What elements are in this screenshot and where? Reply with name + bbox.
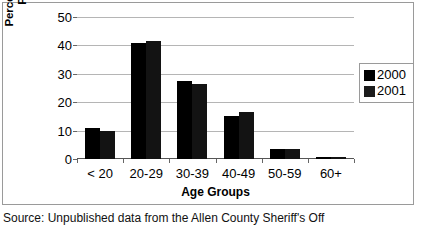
- y-tick-label: 40: [58, 38, 72, 53]
- legend-swatch-2000: [364, 70, 375, 81]
- bar: [177, 81, 192, 159]
- bars-wrap: [308, 17, 354, 159]
- y-tick-label: 50: [58, 10, 72, 25]
- plot-area: 01020304050 < 2020-2930-3940-4950-5960+: [77, 17, 354, 159]
- x-tick-label: 20-29: [130, 166, 163, 181]
- y-axis-title: Percent of Inmates Processed: [2, 0, 30, 46]
- x-tick-label: 50-59: [268, 166, 301, 181]
- bar-group: 20-29: [123, 17, 169, 159]
- bar: [100, 131, 115, 159]
- bars-wrap: [216, 17, 262, 159]
- bar-group: 60+: [308, 17, 354, 159]
- bar: [316, 157, 331, 159]
- x-tick-label: < 20: [87, 166, 113, 181]
- x-tickmark: [216, 159, 217, 163]
- bar: [270, 149, 285, 159]
- x-tick-label: 30-39: [176, 166, 209, 181]
- figure-container: Percent of Inmates Processed 01020304050…: [0, 0, 422, 226]
- source-caption: Source: Unpublished data from the Allen …: [3, 211, 419, 225]
- bar-group: 50-59: [262, 17, 308, 159]
- bar: [239, 112, 254, 159]
- bars-wrap: [169, 17, 215, 159]
- x-tickmark: [262, 159, 263, 163]
- bars-wrap: [77, 17, 123, 159]
- bar-group: 30-39: [169, 17, 215, 159]
- chart-legend: 20002001: [359, 63, 414, 103]
- bar: [146, 41, 161, 159]
- y-tick-label: 20: [58, 95, 72, 110]
- x-tickmark: [169, 159, 170, 163]
- y-tick-label: 0: [65, 152, 72, 167]
- legend-swatch-2001: [364, 86, 375, 97]
- legend-item: 2001: [364, 83, 410, 99]
- bar: [192, 84, 207, 159]
- bar-group: 40-49: [216, 17, 262, 159]
- y-tick-label: 30: [58, 66, 72, 81]
- legend-label: 2000: [377, 68, 406, 82]
- bar: [224, 116, 239, 159]
- bar-group: < 20: [77, 17, 123, 159]
- legend-label: 2001: [377, 84, 406, 98]
- x-tickmark: [123, 159, 124, 163]
- bar: [131, 43, 146, 159]
- y-tick-label: 10: [58, 123, 72, 138]
- legend-item: 2000: [364, 67, 410, 83]
- bar: [331, 157, 346, 159]
- x-tick-label: 60+: [320, 166, 342, 181]
- x-tickmark: [354, 159, 355, 163]
- bars-wrap: [123, 17, 169, 159]
- x-axis-title: Age Groups: [77, 185, 354, 199]
- x-tickmark: [308, 159, 309, 163]
- bar: [85, 128, 100, 159]
- bars-wrap: [262, 17, 308, 159]
- x-tick-label: 40-49: [222, 166, 255, 181]
- bar: [285, 149, 300, 159]
- x-tickmark: [77, 159, 78, 163]
